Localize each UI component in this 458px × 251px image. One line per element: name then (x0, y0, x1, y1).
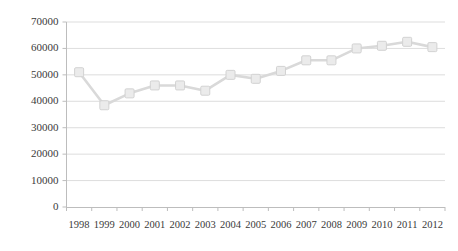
y-tick-label-20000: 20000 (31, 147, 59, 159)
data-point-2008 (327, 56, 336, 65)
line-chart: 010000200003000040000500006000070000 199… (0, 0, 458, 251)
x-tick-label-2008: 2008 (321, 219, 342, 230)
data-point-2012 (428, 43, 437, 52)
y-tick-label-10000: 10000 (31, 174, 59, 186)
x-tick-label-2003: 2003 (195, 219, 216, 230)
x-tick-label-2007: 2007 (296, 219, 317, 230)
chart-container: 010000200003000040000500006000070000 199… (0, 0, 458, 251)
x-tick-label-2006: 2006 (270, 219, 291, 230)
y-tick-label-60000: 60000 (31, 41, 59, 53)
data-point-2001 (150, 81, 159, 90)
x-tick-label-1998: 1998 (69, 219, 90, 230)
y-axis-ticks-group (63, 22, 67, 207)
data-point-2010 (377, 41, 386, 50)
x-tick-label-2002: 2002 (170, 219, 191, 230)
x-tick-label-1999: 1999 (94, 219, 115, 230)
y-tick-label-40000: 40000 (31, 94, 59, 106)
y-tick-label-50000: 50000 (31, 68, 59, 80)
data-point-2002 (176, 81, 185, 90)
x-tick-label-2005: 2005 (245, 219, 266, 230)
y-axis-labels-group: 010000200003000040000500006000070000 (31, 15, 59, 212)
data-point-1999 (100, 101, 109, 110)
data-point-2005 (251, 74, 260, 83)
data-point-2006 (276, 66, 285, 75)
data-point-2007 (302, 56, 311, 65)
data-point-2003 (201, 86, 210, 95)
x-axis-labels-group: 1998199920002001200220032004200520062007… (69, 219, 443, 230)
data-point-2009 (352, 44, 361, 53)
data-point-2011 (403, 37, 412, 46)
x-tick-label-2004: 2004 (220, 219, 242, 230)
x-tick-label-2010: 2010 (371, 219, 392, 230)
data-point-2004 (226, 70, 235, 79)
data-point-1998 (75, 68, 84, 77)
x-tick-label-2012: 2012 (422, 219, 443, 230)
y-tick-label-0: 0 (53, 200, 59, 212)
data-point-2000 (125, 89, 134, 98)
y-tick-label-70000: 70000 (31, 15, 59, 27)
x-tick-label-2000: 2000 (119, 219, 140, 230)
x-tick-label-2009: 2009 (346, 219, 367, 230)
y-tick-label-30000: 30000 (31, 121, 59, 133)
x-tick-label-2011: 2011 (397, 219, 418, 230)
x-tick-label-2001: 2001 (144, 219, 165, 230)
